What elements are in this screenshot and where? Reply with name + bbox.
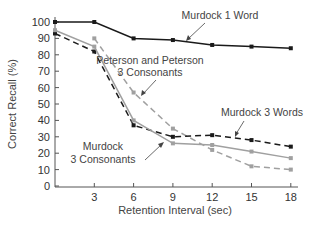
y-tick-label: 10 — [38, 164, 50, 176]
data-point-marker — [132, 36, 136, 40]
data-point-marker — [132, 91, 136, 95]
y-tick-label: 40 — [38, 114, 50, 126]
data-point-marker — [210, 133, 214, 137]
y-tick-label: 30 — [38, 131, 50, 143]
line-chart: 0102030405060708090100 369121518 Retenti… — [0, 0, 314, 226]
annotation-peterson-line1: Peterson and Peterson — [96, 54, 204, 66]
annotation-murdock-3-consonants-line2: 3 Consonants — [71, 153, 136, 165]
data-point-marker — [92, 36, 96, 40]
x-axis-label: Retention Interval (sec) — [118, 204, 232, 216]
annotation-murdock-1-word: Murdock 1 Word — [182, 9, 259, 21]
data-point-marker — [171, 135, 175, 139]
arrow-head-icon — [186, 35, 191, 41]
y-tick-label: 20 — [38, 147, 50, 159]
x-tick-label: 12 — [206, 191, 218, 203]
x-tick-label: 9 — [170, 191, 176, 203]
data-point-marker — [92, 45, 96, 49]
data-point-marker — [171, 141, 175, 145]
y-tick-label: 100 — [32, 16, 50, 28]
data-point-marker — [53, 28, 57, 32]
annotation-peterson-line2: 3 Consonants — [118, 66, 183, 78]
annotation-murdock-3-consonants-line1: Murdock — [83, 140, 124, 152]
x-tick-label: 6 — [131, 191, 137, 203]
data-point-marker — [289, 46, 293, 50]
arrow-head-icon — [141, 90, 146, 96]
data-point-marker — [210, 43, 214, 47]
data-point-marker — [92, 20, 96, 24]
annotation-arrow — [145, 144, 162, 160]
data-point-marker — [210, 143, 214, 147]
annotation-arrow — [143, 80, 156, 94]
data-point-marker — [53, 20, 57, 24]
y-tick-label: 80 — [38, 49, 50, 61]
x-tick-label: 18 — [285, 191, 297, 203]
data-point-marker — [171, 127, 175, 131]
series-murdock-3-consonants — [55, 30, 291, 158]
data-point-marker — [171, 38, 175, 42]
data-point-marker — [250, 45, 254, 49]
data-point-marker — [132, 123, 136, 127]
y-tick-label: 50 — [38, 98, 50, 110]
data-point-marker — [289, 168, 293, 172]
x-tick-label: 3 — [91, 191, 97, 203]
data-point-marker — [250, 150, 254, 154]
y-tick-label: 70 — [38, 65, 50, 77]
y-tick-label: 60 — [38, 82, 50, 94]
data-point-marker — [250, 164, 254, 168]
data-point-marker — [289, 156, 293, 160]
y-tick-label: 90 — [38, 32, 50, 44]
y-axis-label: Correct Recall (%) — [6, 59, 18, 149]
data-point-marker — [289, 145, 293, 149]
data-point-marker — [132, 118, 136, 122]
annotation-murdock-3-words: Murdock 3 Words — [221, 106, 303, 118]
annotation-arrow — [188, 23, 205, 39]
annotation-arrow — [236, 121, 244, 134]
y-tick-label: 0 — [44, 180, 50, 192]
data-point-marker — [210, 148, 214, 152]
x-ticks: 369121518 — [91, 183, 297, 203]
x-tick-label: 15 — [245, 191, 257, 203]
data-point-marker — [250, 138, 254, 142]
